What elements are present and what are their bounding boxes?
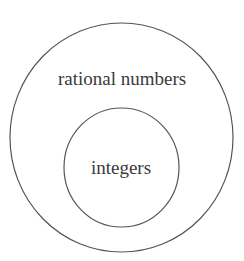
inner-set-label: integers bbox=[91, 157, 151, 178]
venn-diagram: rational numbers integers bbox=[0, 0, 244, 261]
outer-set-label: rational numbers bbox=[58, 68, 186, 89]
outer-set-circle bbox=[10, 23, 233, 252]
